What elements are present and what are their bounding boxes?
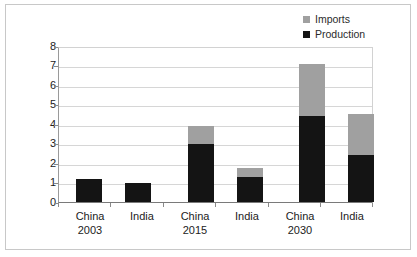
gridline-5 [59,106,372,107]
gridline-2 [59,165,372,166]
gridline-3 [59,145,372,146]
x-label-india-2003: India [112,209,172,223]
gridline-1 [59,184,372,185]
bar-segment-imports [348,114,374,155]
y-tick-label-4: 4 [36,119,56,130]
legend-label-production: Production [315,28,365,41]
x-label-country: India [217,209,277,223]
bar-india-2015 [237,168,263,202]
x-label-year: 2030 [270,223,330,237]
x-tick-mark-0 [58,203,59,207]
y-axis: 8 7 6 5 4 3 2 1 0 [30,0,56,257]
x-tick-mark-3 [215,203,216,207]
bar-india-2030 [348,114,374,202]
x-tick-mark-5 [320,203,321,207]
x-label-china-2015: China 2015 [165,209,225,237]
bar-segment-imports [237,168,263,177]
y-tick-label-8: 8 [36,41,56,52]
y-tick-label-3: 3 [36,138,56,149]
bar-india-2003 [125,183,151,202]
gridline-7 [59,67,372,68]
bar-china-2030 [299,64,325,202]
y-tick-label-1: 1 [36,177,56,188]
x-label-china-2003: China 2003 [60,209,120,237]
plot-area [58,47,373,203]
x-label-country: China [270,209,330,223]
x-label-india-2015: India [217,209,277,223]
x-label-country: China [165,209,225,223]
y-tick-label-6: 6 [36,80,56,91]
bar-segment-production [299,116,325,202]
bar-segment-imports [299,64,325,116]
bar-segment-imports [188,126,214,144]
y-tick-label-2: 2 [36,158,56,169]
x-label-country: India [112,209,172,223]
bar-segment-production [237,177,263,202]
x-label-country: China [60,209,120,223]
x-label-year: 2015 [165,223,225,237]
y-tick-label-5: 5 [36,99,56,110]
y-tick-label-0: 0 [36,197,56,208]
x-tick-mark-2 [163,203,164,207]
legend-swatch-production [303,31,310,38]
bar-segment-production [348,155,374,202]
x-label-india-2030: India [322,209,382,223]
bar-china-2015 [188,126,214,202]
legend-item-production: Production [303,28,403,41]
chart-legend: Imports Production [303,13,403,43]
legend-label-imports: Imports [315,13,350,26]
gridline-4 [59,126,372,127]
bar-china-2003 [76,179,102,202]
x-label-year: 2003 [60,223,120,237]
chart-figure: Imports Production 8 7 6 5 4 3 2 1 0 [0,0,417,257]
bar-segment-production [188,144,214,202]
bar-segment-production [76,179,102,202]
bar-segment-production [125,183,151,202]
legend-item-imports: Imports [303,13,403,26]
x-label-china-2030: China 2030 [270,209,330,237]
x-tick-mark-4 [268,203,269,207]
gridline-6 [59,87,372,88]
x-tick-mark-1 [110,203,111,207]
x-tick-mark-6 [372,203,373,207]
x-label-country: India [322,209,382,223]
y-tick-label-7: 7 [36,60,56,71]
legend-swatch-imports [303,16,310,23]
